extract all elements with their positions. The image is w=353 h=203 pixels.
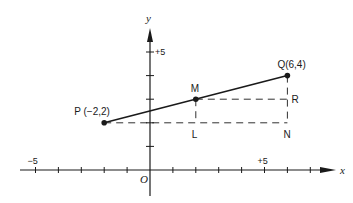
point-label-m: M bbox=[191, 83, 199, 94]
point-label-p: P (−2,2) bbox=[74, 106, 110, 117]
x-tick-label-plus-5: +5 bbox=[258, 156, 268, 166]
point-p bbox=[101, 120, 107, 126]
coordinate-diagram: x y O −5 +5 +5 P (−2,2) Q(6,4) M L N R bbox=[0, 0, 353, 203]
x-axis-arrowhead-icon bbox=[320, 167, 336, 173]
point-label-n: N bbox=[283, 129, 290, 140]
y-axis-label: y bbox=[145, 12, 151, 24]
origin-label: O bbox=[140, 173, 148, 185]
point-label-q: Q(6,4) bbox=[277, 59, 305, 70]
y-axis-arrowhead-icon bbox=[147, 28, 153, 42]
x-tick-label-minus-5: −5 bbox=[28, 156, 38, 166]
y-tick-label-plus-5: +5 bbox=[155, 47, 165, 57]
point-q bbox=[285, 73, 291, 79]
point-label-r: R bbox=[291, 94, 298, 105]
point-m bbox=[193, 96, 199, 102]
point-label-l: L bbox=[192, 129, 198, 140]
x-axis-label: x bbox=[339, 164, 345, 176]
